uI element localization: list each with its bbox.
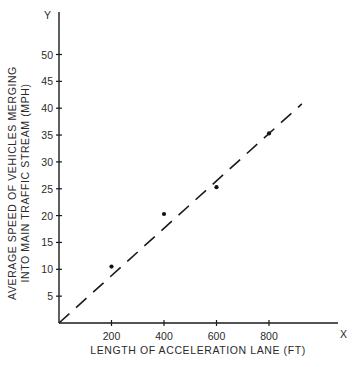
- y-tick-label: 45: [41, 75, 53, 87]
- y-axis-title-line1: AVERAGE SPEED OF VEHICLES MERGING: [6, 66, 18, 300]
- y-tick-label: 50: [41, 49, 53, 61]
- x-axis-title: LENGTH OF ACCELERATION LANE (FT): [90, 344, 306, 356]
- plot-series: [59, 104, 302, 323]
- x-tick-label: 200: [103, 330, 121, 342]
- data-point: [214, 185, 218, 189]
- fit-line: [59, 104, 302, 323]
- data-point: [109, 265, 113, 269]
- y-tick-label: 35: [41, 129, 53, 141]
- y-tick-label: 25: [41, 183, 53, 195]
- y-tick-label: 15: [41, 236, 53, 248]
- data-point: [162, 212, 166, 216]
- x-tick-label: 400: [155, 330, 173, 342]
- chart: 5101520253035404550 200400600800 Y X LEN…: [0, 0, 358, 367]
- y-tick-label: 5: [47, 290, 53, 302]
- y-axis-title: AVERAGE SPEED OF VEHICLES MERGING INTO M…: [6, 66, 31, 300]
- y-tick-label: 40: [41, 102, 53, 114]
- x-tick-label: 600: [208, 330, 226, 342]
- x-axis-end-label: X: [340, 328, 347, 340]
- y-tick-label: 10: [41, 263, 53, 275]
- x-tick-label: 800: [260, 330, 278, 342]
- y-tick-label: 30: [41, 156, 53, 168]
- axes: [59, 12, 338, 323]
- y-axis-end-label: Y: [44, 9, 51, 21]
- y-tick-label: 20: [41, 210, 53, 222]
- y-axis-title-line2: INTO MAIN TRAFFIC STREAM (MPH): [19, 83, 31, 282]
